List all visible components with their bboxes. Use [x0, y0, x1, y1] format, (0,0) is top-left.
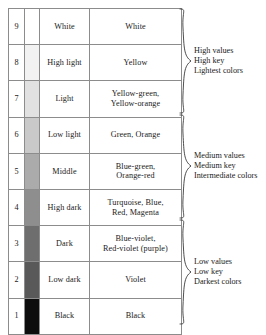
table-row: 5 Middle Blue-green, Orange-red	[9, 153, 182, 189]
curly-brace-icon	[178, 8, 194, 114]
value-swatch-fill	[25, 118, 39, 153]
table-row: 9 White White	[9, 9, 182, 45]
annotation-text-low: Low values Low key Darkest colors	[194, 257, 242, 288]
annotation-line-1: Medium values	[194, 151, 257, 161]
row-color-description: Yellow-green, Yellow-orange	[90, 81, 182, 117]
value-swatch-fill	[25, 154, 39, 189]
value-swatch-fill	[25, 81, 39, 116]
value-swatch-fill	[25, 9, 39, 44]
annotation-line-1: High values	[194, 46, 243, 56]
description-line-1: Yellow-green,	[90, 89, 181, 99]
annotation-line-3: Darkest colors	[194, 277, 242, 287]
table-row: 8 High light Yellow	[9, 45, 182, 81]
row-value-name: Low dark	[40, 262, 90, 298]
annotation-line-2: Medium key	[194, 161, 257, 171]
value-swatch	[25, 189, 40, 225]
value-swatch	[25, 9, 40, 45]
row-value-name: High dark	[40, 189, 90, 225]
row-color-description: Green, Orange	[90, 117, 182, 153]
value-swatch	[25, 153, 40, 189]
row-color-description: Blue-violet, Red-violet (purple)	[90, 226, 182, 262]
value-swatch	[25, 81, 40, 117]
description-line-2: Orange-red	[90, 171, 181, 181]
value-swatch-fill	[25, 226, 39, 261]
description-line-2: Red-violet (purple)	[90, 244, 181, 254]
row-step-number: 2	[9, 262, 25, 298]
row-step-number: 9	[9, 9, 25, 45]
value-swatch	[25, 262, 40, 298]
description-line-1: White	[90, 22, 181, 32]
description-line-1: Green, Orange	[90, 130, 181, 140]
row-color-description: White	[90, 9, 182, 45]
value-swatch-fill	[25, 45, 39, 80]
row-step-number: 7	[9, 81, 25, 117]
row-value-name: Light	[40, 81, 90, 117]
row-color-description: Black	[90, 298, 182, 334]
description-line-1: Violet	[90, 275, 181, 285]
annotation-line-2: Low key	[194, 267, 242, 277]
value-swatch	[25, 226, 40, 262]
value-swatch-fill	[25, 190, 39, 225]
value-scale-table-body: 9 White White 8 High light Yellow 7	[9, 9, 182, 335]
row-value-name: Low light	[40, 117, 90, 153]
description-line-1: Black	[90, 311, 181, 321]
row-step-number: 6	[9, 117, 25, 153]
annotation-line-2: High key	[194, 56, 243, 66]
table-row: 6 Low light Green, Orange	[9, 117, 182, 153]
description-line-1: Blue-violet,	[90, 234, 181, 244]
table-row: 1 Black Black	[9, 298, 182, 334]
row-step-number: 8	[9, 45, 25, 81]
annotation-text-medium: Medium values Medium key Intermediate co…	[194, 151, 257, 182]
row-step-number: 4	[9, 189, 25, 225]
row-step-number: 3	[9, 226, 25, 262]
row-step-number: 1	[9, 298, 25, 334]
annotation-line-3: Intermediate colors	[194, 171, 257, 181]
curly-brace-icon	[178, 219, 194, 325]
value-swatch-fill	[25, 262, 39, 297]
row-color-description: Yellow	[90, 45, 182, 81]
row-color-description: Violet	[90, 262, 182, 298]
description-line-2: Red, Magenta	[90, 208, 181, 218]
value-swatch	[25, 117, 40, 153]
row-color-description: Turquoise, Blue, Red, Magenta	[90, 189, 182, 225]
value-swatch	[25, 45, 40, 81]
row-value-name: White	[40, 9, 90, 45]
row-value-name: High light	[40, 45, 90, 81]
annotation-line-3: Lightest colors	[194, 66, 243, 76]
row-value-name: Dark	[40, 226, 90, 262]
value-scale-table: 9 White White 8 High light Yellow 7	[8, 8, 182, 335]
row-color-description: Blue-green, Orange-red	[90, 153, 182, 189]
annotation-text-high: High values High key Lightest colors	[194, 46, 243, 77]
table-row: 2 Low dark Violet	[9, 262, 182, 298]
table-row: 4 High dark Turquoise, Blue, Red, Magent…	[9, 189, 182, 225]
row-value-name: Middle	[40, 153, 90, 189]
row-step-number: 5	[9, 153, 25, 189]
description-line-2: Yellow-orange	[90, 99, 181, 109]
curly-brace-icon	[178, 114, 194, 219]
row-value-name: Black	[40, 298, 90, 334]
description-line-1: Turquoise, Blue,	[90, 198, 181, 208]
table-row: 7 Light Yellow-green, Yellow-orange	[9, 81, 182, 117]
table-row: 3 Dark Blue-violet, Red-violet (purple)	[9, 226, 182, 262]
annotation-line-1: Low values	[194, 257, 242, 267]
description-line-1: Yellow	[90, 58, 181, 68]
value-swatch-fill	[25, 299, 39, 334]
description-line-1: Blue-green,	[90, 162, 181, 172]
value-swatch	[25, 298, 40, 334]
